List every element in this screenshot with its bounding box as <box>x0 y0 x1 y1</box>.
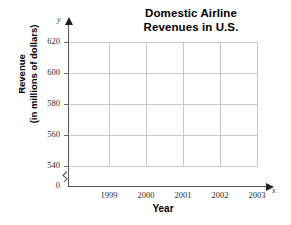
y-tick-mark-560 <box>64 135 69 136</box>
gridline-vertical-1999 <box>109 42 110 167</box>
gridline-horizontal-540 <box>68 166 258 167</box>
x-tick-label-2003: 2003 <box>237 190 277 200</box>
y-axis-title: Revenue (in millions of dollars) <box>16 0 40 149</box>
y-tick-mark-580 <box>64 104 69 105</box>
chart-figure: Domestic Airline Revenues in U.S. y x 62… <box>0 0 291 225</box>
x-tick-label-2001: 2001 <box>163 190 203 200</box>
zigzag-break-icon <box>62 170 75 183</box>
x-tick-label-2002: 2002 <box>200 190 240 200</box>
y-axis-title-line-2: (in millions of dollars) <box>28 0 40 149</box>
x-axis-line <box>68 186 268 187</box>
gridline-horizontal-600 <box>68 73 258 74</box>
y-axis-line <box>68 24 69 186</box>
gridline-horizontal-620 <box>68 42 258 43</box>
y-tick-mark-600 <box>64 73 69 74</box>
gridline-horizontal-580 <box>68 104 258 105</box>
x-tick-label-2000: 2000 <box>126 190 166 200</box>
chart-title: Domestic Airline Revenues in U.S. <box>96 6 286 34</box>
y-axis-arrow-icon <box>65 17 73 25</box>
x-tick-label-1999: 1999 <box>89 190 129 200</box>
y-axis-title-line-1: Revenue <box>16 0 28 149</box>
gridline-vertical-2003 <box>257 42 258 167</box>
gridline-horizontal-560 <box>68 135 258 136</box>
y-tick-mark-620 <box>64 42 69 43</box>
chart-title-line-1: Domestic Airline <box>96 6 286 20</box>
gridline-vertical-2002 <box>220 42 221 167</box>
y-tick-label-540: 540 <box>14 161 60 170</box>
plot-area <box>68 42 258 167</box>
chart-title-line-2: Revenues in U.S. <box>96 20 286 34</box>
y-tick-mark-540 <box>64 166 69 167</box>
gridline-vertical-2000 <box>146 42 147 167</box>
x-axis-title: Year <box>68 203 258 214</box>
y-axis-variable-label: y <box>57 15 61 24</box>
gridline-vertical-2001 <box>183 42 184 167</box>
y-tick-label-origin: 0 <box>14 181 60 190</box>
